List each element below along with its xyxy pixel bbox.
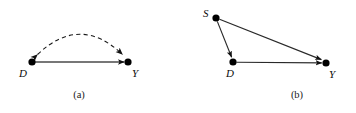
caption-panel-a: (a) (70, 90, 88, 101)
node-label-y-panel-a: Y (132, 68, 138, 79)
node-label-d-panel-a: D (19, 68, 27, 79)
edge-s-to-y (220, 19, 322, 59)
node-y-panel-a (124, 58, 131, 65)
node-d-panel-b (229, 58, 236, 65)
figure-container: Y --> D Y (a) (0, 0, 356, 113)
edge-d-y-bidirected-dashed (38, 34, 123, 54)
panel-b: S D Y (b) (178, 0, 356, 113)
node-d-panel-a (28, 58, 35, 65)
node-label-d-panel-b: D (226, 68, 234, 79)
node-label-y-panel-b: Y (329, 69, 335, 80)
panel-a-graph: Y --> (0, 0, 178, 113)
edge-s-to-d (217, 21, 231, 57)
edge-d-to-y (236, 62, 321, 63)
node-label-s-panel-b: S (203, 8, 209, 19)
caption-panel-b: (b) (288, 90, 306, 101)
panel-a: Y --> D Y (a) (0, 0, 178, 113)
node-y-panel-b (322, 59, 329, 66)
node-s-panel-b (212, 14, 219, 21)
